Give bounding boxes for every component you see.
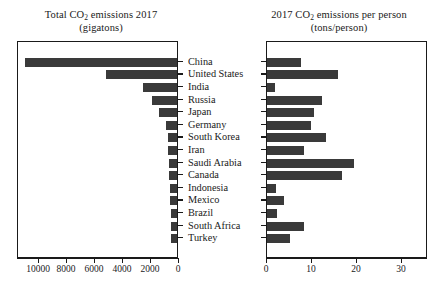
axis-tick xyxy=(122,258,123,263)
axis-tick xyxy=(356,258,357,263)
category-label: Saudi Arabia xyxy=(188,156,241,169)
left-title-post: emissions 2017 xyxy=(88,9,157,20)
axis-tick xyxy=(150,258,151,263)
axis-tick xyxy=(66,258,67,263)
left-row-tick xyxy=(178,149,183,150)
left-axis-line xyxy=(17,258,178,259)
left-row-tick xyxy=(178,187,183,188)
right-row-tick xyxy=(261,136,266,137)
category-label-row: Brazil xyxy=(178,206,266,219)
right-row-tick xyxy=(261,187,266,188)
left-row-tick xyxy=(178,86,183,87)
left-row-tick xyxy=(178,212,183,213)
bar xyxy=(267,58,301,67)
right-axis-line xyxy=(266,258,427,259)
category-label: Indonesia xyxy=(188,181,228,194)
bar xyxy=(267,70,338,79)
bar xyxy=(267,171,342,180)
bar xyxy=(168,146,177,155)
category-label-row: South Korea xyxy=(178,130,266,143)
category-label-row: Turkey xyxy=(178,231,266,244)
axis-tick xyxy=(311,258,312,263)
bar xyxy=(152,96,177,105)
axis-tick-label: 4000 xyxy=(113,264,132,275)
category-label: China xyxy=(188,55,213,68)
right-row-tick xyxy=(261,124,266,125)
left-title-pre: Total CO xyxy=(45,9,84,20)
category-label: Mexico xyxy=(188,193,219,206)
bar xyxy=(267,108,314,117)
bar xyxy=(25,58,177,67)
bar xyxy=(267,146,304,155)
right-title-post: emissions per person xyxy=(314,9,407,20)
bar xyxy=(267,96,322,105)
right-title-pre: 2017 CO xyxy=(271,9,310,20)
right-row-tick xyxy=(261,111,266,112)
axis-tick-label: 20 xyxy=(351,264,361,275)
right-panel-title-line2: (tons/person) xyxy=(244,22,434,35)
bar xyxy=(267,209,277,218)
bar xyxy=(267,121,311,130)
axis-tick-label: 0 xyxy=(264,264,269,275)
category-label: Japan xyxy=(188,105,211,118)
right-row-tick xyxy=(261,212,266,213)
left-row-tick xyxy=(178,199,183,200)
right-bars-area xyxy=(267,42,426,257)
left-row-tick xyxy=(178,61,183,62)
right-panel-title: 2017 CO2 emissions per person (tons/pers… xyxy=(244,9,434,34)
right-row-tick xyxy=(261,162,266,163)
category-label: Canada xyxy=(188,168,219,181)
category-label-row: Iran xyxy=(178,143,266,156)
category-label-row: Canada xyxy=(178,168,266,181)
category-label: South Korea xyxy=(188,130,240,143)
bar xyxy=(170,196,177,205)
right-row-tick xyxy=(261,174,266,175)
bar xyxy=(169,171,177,180)
bar xyxy=(267,234,290,243)
category-label-row: Saudi Arabia xyxy=(178,156,266,169)
left-x-axis: 1000080006000400020000 xyxy=(17,258,178,274)
category-label: India xyxy=(188,80,209,93)
bar xyxy=(143,83,177,92)
axis-tick-label: 6000 xyxy=(85,264,104,275)
category-label: United States xyxy=(188,67,243,80)
left-row-tick xyxy=(178,237,183,238)
bar xyxy=(169,159,177,168)
axis-tick-label: 2000 xyxy=(141,264,160,275)
axis-tick xyxy=(266,258,267,263)
right-row-tick xyxy=(261,99,266,100)
category-label-row: Japan xyxy=(178,105,266,118)
bar xyxy=(168,133,177,142)
category-label: Brazil xyxy=(188,206,213,219)
category-label-row: China xyxy=(178,55,266,68)
right-row-tick xyxy=(261,199,266,200)
category-label: Russia xyxy=(188,93,215,106)
category-label: South Africa xyxy=(188,219,240,232)
category-labels: ChinaUnited StatesIndiaRussiaJapanGerman… xyxy=(178,41,266,258)
bar xyxy=(171,234,177,243)
right-panel-title-line1: 2017 CO2 emissions per person xyxy=(271,9,407,20)
left-bars-area xyxy=(18,42,177,257)
left-panel-title-line1: Total CO2 emissions 2017 xyxy=(45,9,157,20)
axis-tick-label: 10 xyxy=(306,264,316,275)
left-row-tick xyxy=(178,73,183,74)
axis-tick-label: 10000 xyxy=(26,264,50,275)
left-row-tick xyxy=(178,99,183,100)
left-row-tick xyxy=(178,111,183,112)
category-label-row: Germany xyxy=(178,118,266,131)
axis-tick-label: 8000 xyxy=(57,264,76,275)
axis-tick xyxy=(178,258,179,263)
left-plot-frame xyxy=(17,41,178,258)
bar xyxy=(159,108,177,117)
left-row-tick xyxy=(178,162,183,163)
axis-tick xyxy=(94,258,95,263)
bar xyxy=(106,70,177,79)
left-row-tick xyxy=(178,174,183,175)
left-panel-title: Total CO2 emissions 2017 (gigatons) xyxy=(6,9,196,34)
right-row-tick xyxy=(261,86,266,87)
bar xyxy=(267,83,275,92)
category-label-row: Mexico xyxy=(178,193,266,206)
right-row-tick xyxy=(261,237,266,238)
bar xyxy=(267,133,326,142)
bar xyxy=(171,209,177,218)
